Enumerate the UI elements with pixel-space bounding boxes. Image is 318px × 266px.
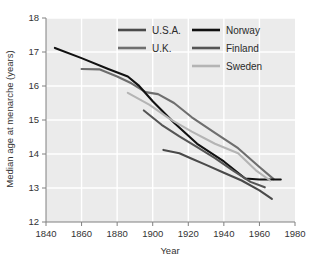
legend-label-u-s-a: U.S.A.: [152, 25, 181, 36]
y-tick-label: 15: [28, 114, 39, 125]
y-tick-label: 13: [28, 182, 39, 193]
x-tick-label: 1940: [213, 228, 234, 239]
x-tick-label: 1900: [142, 228, 163, 239]
y-tick-label: 14: [28, 148, 39, 159]
y-tick-label: 17: [28, 46, 39, 57]
x-tick-label: 1960: [249, 228, 270, 239]
y-axis-title: Median age at menarche (years): [4, 50, 15, 187]
y-tick-label: 12: [28, 216, 39, 227]
legend-label-finland: Finland: [226, 43, 259, 54]
chart-figure: 18401860188019001920194019601980 1213141…: [0, 0, 318, 266]
x-tick-label: 1980: [284, 228, 305, 239]
y-tick-label: 18: [28, 12, 39, 23]
legend-label-norway: Norway: [226, 25, 260, 36]
y-tick-label: 16: [28, 80, 39, 91]
legend-label-u-k: U.K.: [152, 43, 171, 54]
x-tick-label: 1860: [71, 228, 92, 239]
x-tick-label: 1920: [178, 228, 199, 239]
x-axis-title: Year: [160, 245, 179, 256]
x-tick-label: 1840: [35, 228, 56, 239]
x-tick-label: 1880: [107, 228, 128, 239]
legend-label-sweden: Sweden: [226, 61, 262, 72]
menarche-age-line-chart: 18401860188019001920194019601980 1213141…: [0, 0, 318, 266]
